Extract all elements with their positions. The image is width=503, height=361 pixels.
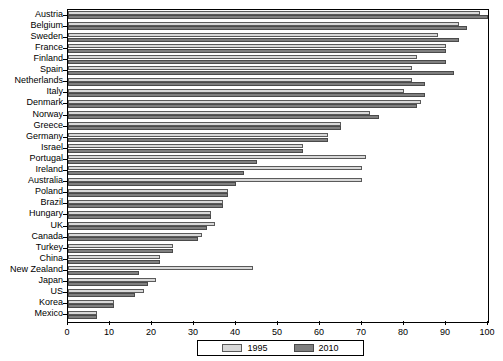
category-label: Hungary	[0, 209, 63, 218]
category-label: Spain	[0, 65, 63, 74]
category-label: UK	[0, 221, 63, 230]
bar-2010-norway	[68, 115, 379, 119]
category-tick	[63, 314, 67, 315]
x-tick-label: 10	[94, 327, 124, 337]
category-label: Australia	[0, 176, 63, 185]
x-tick	[235, 321, 236, 325]
bar-1995-belgium	[68, 22, 459, 26]
legend-swatch-icon	[294, 344, 314, 352]
bar-1995-austria	[68, 11, 480, 15]
bar-2010-israel	[68, 149, 303, 153]
x-tick-label: 60	[304, 327, 334, 337]
category-tick	[63, 126, 67, 127]
category-tick	[63, 281, 67, 282]
category-tick	[63, 115, 67, 116]
bar-2010-japan	[68, 282, 148, 286]
category-label: Netherlands	[0, 76, 63, 85]
bar-1995-uk	[68, 222, 215, 226]
category-label: New Zealand	[0, 265, 63, 274]
category-label: Mexico	[0, 309, 63, 318]
bar-1995-spain	[68, 66, 412, 70]
x-tick-label: 20	[136, 327, 166, 337]
category-tick	[63, 159, 67, 160]
category-tick	[63, 226, 67, 227]
category-tick	[63, 192, 67, 193]
category-tick	[63, 181, 67, 182]
category-label: Greece	[0, 121, 63, 130]
category-tick	[63, 259, 67, 260]
x-tick	[361, 321, 362, 325]
bar-2010-sweden	[68, 38, 459, 42]
category-label: Denmark	[0, 98, 63, 107]
bar-2010-netherlands	[68, 82, 425, 86]
bar-2010-italy	[68, 93, 425, 97]
bar-2010-austria	[68, 15, 488, 19]
bar-2010-portugal	[68, 160, 257, 164]
bar-1995-denmark	[68, 100, 421, 104]
category-label: Ireland	[0, 165, 63, 174]
x-tick	[67, 321, 68, 325]
category-tick	[63, 270, 67, 271]
x-tick-label: 90	[430, 327, 460, 337]
bar-2010-australia	[68, 182, 236, 186]
category-tick	[63, 170, 67, 171]
category-label: Austria	[0, 10, 63, 19]
category-tick	[63, 59, 67, 60]
bar-chart: AustriaBelgiumSwedenFranceFinlandSpainNe…	[0, 0, 503, 361]
category-label: Canada	[0, 232, 63, 241]
bar-1995-china	[68, 255, 160, 259]
category-tick	[63, 92, 67, 93]
category-label: Norway	[0, 110, 63, 119]
category-tick	[63, 303, 67, 304]
category-label: Sweden	[0, 32, 63, 41]
bar-1995-france	[68, 44, 446, 48]
legend-item-2010[interactable]: 2010	[294, 344, 339, 353]
bar-2010-mexico	[68, 315, 97, 319]
bars-layer	[68, 10, 488, 321]
bar-1995-mexico	[68, 311, 97, 315]
category-tick	[63, 203, 67, 204]
bar-1995-germany	[68, 133, 328, 137]
category-tick	[63, 248, 67, 249]
bar-1995-turkey	[68, 244, 173, 248]
category-tick	[63, 26, 67, 27]
bar-2010-denmark	[68, 104, 417, 108]
bar-1995-new-zealand	[68, 266, 253, 270]
bar-1995-hungary	[68, 211, 211, 215]
category-tick	[63, 214, 67, 215]
category-label: China	[0, 254, 63, 263]
category-tick	[63, 137, 67, 138]
category-label: Turkey	[0, 243, 63, 252]
x-tick-label: 80	[388, 327, 418, 337]
legend-item-1995[interactable]: 1995	[222, 344, 267, 353]
bar-1995-korea	[68, 300, 114, 304]
category-label: Belgium	[0, 21, 63, 30]
bar-1995-canada	[68, 233, 202, 237]
x-tick	[319, 321, 320, 325]
category-label: Japan	[0, 276, 63, 285]
legend-swatch-icon	[222, 344, 242, 352]
category-label: Finland	[0, 54, 63, 63]
bar-2010-germany	[68, 138, 328, 142]
bar-2010-hungary	[68, 215, 211, 219]
bar-2010-belgium	[68, 26, 467, 30]
category-label: Portugal	[0, 154, 63, 163]
x-tick	[193, 321, 194, 325]
bar-1995-israel	[68, 144, 303, 148]
bar-2010-turkey	[68, 249, 173, 253]
chart-legend: 19952010	[197, 340, 364, 356]
category-label: Poland	[0, 187, 63, 196]
bar-2010-ireland	[68, 171, 244, 175]
bar-2010-uk	[68, 226, 207, 230]
bar-2010-canada	[68, 237, 198, 241]
category-tick	[63, 237, 67, 238]
bar-2010-finland	[68, 60, 446, 64]
x-tick-label: 70	[346, 327, 376, 337]
bar-1995-australia	[68, 178, 362, 182]
bar-2010-spain	[68, 71, 454, 75]
category-tick	[63, 37, 67, 38]
x-tick-label: 40	[220, 327, 250, 337]
bar-1995-finland	[68, 55, 417, 59]
bar-2010-brazil	[68, 204, 223, 208]
bar-1995-ireland	[68, 166, 362, 170]
